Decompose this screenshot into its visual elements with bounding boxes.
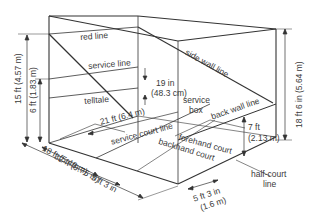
telltale-height-dimension-1: 19 in xyxy=(156,79,174,88)
half-court-line-label-1: half-court xyxy=(251,170,286,179)
telltale-height-dimension-2: (48.3 cm) xyxy=(151,89,187,98)
service-box-label-2: box xyxy=(189,106,203,115)
top-right-edge xyxy=(138,16,276,29)
telltale-label: telltale xyxy=(84,95,109,106)
front-wall-height-dimension: 15 ft (4.57 m) xyxy=(14,53,23,104)
top-left-edge xyxy=(49,16,178,41)
half-court-line-label-2: line xyxy=(263,180,276,189)
back-to-corner-dimension: 18 ft 6 in (5.64 m) xyxy=(295,61,304,128)
red-line-label: red line xyxy=(80,31,108,41)
service-box-label-1: service xyxy=(183,96,210,105)
service-line-height-dimension: 6 ft (1.83 m) xyxy=(29,67,38,113)
back-wall-top-edge xyxy=(178,29,276,41)
back-wall-height-dimension-1: 7 ft xyxy=(248,123,260,132)
back-wall-height-dimension-2: (2.13 m) xyxy=(248,134,280,143)
